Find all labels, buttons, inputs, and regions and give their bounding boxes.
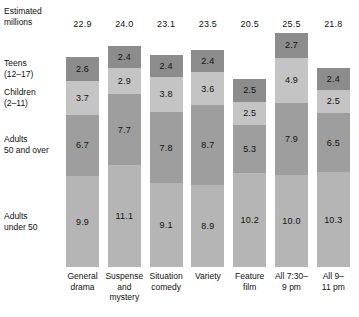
category-label: All 9–11 pm <box>313 271 354 292</box>
category-label-line: Suspense <box>104 271 145 282</box>
bar-segment-value: 3.8 <box>160 89 173 99</box>
bar-segment-value: 10.2 <box>241 215 259 225</box>
category-label: Featurefilm <box>229 271 270 292</box>
category-label: Situationcomedy <box>146 271 187 292</box>
bar-segment: 7.7 <box>108 94 141 165</box>
bar-segment: 2.4 <box>317 68 350 90</box>
bar-segment: 3.7 <box>66 81 99 115</box>
bar-segment-value: 2.4 <box>118 52 131 62</box>
bar-segment: 7.9 <box>275 103 308 175</box>
bar-segment: 4.9 <box>275 58 308 103</box>
bar-segment-value: 2.5 <box>243 85 256 95</box>
bar-segment: 6.7 <box>66 115 99 176</box>
bar-column: 2.42.56.510.3 <box>317 68 350 267</box>
category-label-line: 11 pm <box>313 282 354 293</box>
bar-column: 2.52.55.310.2 <box>233 79 266 267</box>
bar-segment-value: 9.9 <box>76 217 89 227</box>
bar-segment: 2.5 <box>233 79 266 102</box>
bar-segment-value: 4.9 <box>285 75 298 85</box>
category-label-line: Feature <box>229 271 270 282</box>
bar-segment-value: 7.9 <box>285 134 298 144</box>
bar-segment-value: 2.4 <box>327 74 340 84</box>
bar-segment-value: 8.9 <box>201 221 214 231</box>
bar-segment: 2.6 <box>66 57 99 81</box>
bar-segment: 6.5 <box>317 113 350 173</box>
bar-segment-value: 9.1 <box>160 220 173 230</box>
bar-segment: 2.7 <box>275 33 308 58</box>
bar-segment: 2.5 <box>317 90 350 113</box>
bar-column: 2.63.76.79.9 <box>66 57 99 267</box>
bar-segment: 10.2 <box>233 173 266 267</box>
bar-segment: 5.3 <box>233 125 266 174</box>
bar-segment: 2.5 <box>233 102 266 125</box>
category-label: All 7:30–9 pm <box>271 271 312 292</box>
bar-segment-value: 10.0 <box>282 216 300 226</box>
category-label: Suspenseandmystery <box>104 271 145 303</box>
bar-segment: 10.0 <box>275 175 308 267</box>
category-label-line: and <box>104 282 145 293</box>
bar-segment-value: 6.5 <box>327 138 340 148</box>
category-label: Variety <box>187 271 228 282</box>
category-label: Generaldrama <box>62 271 103 292</box>
bar-segment: 2.4 <box>191 50 224 72</box>
category-label-line: comedy <box>146 282 187 293</box>
bar-segment: 9.9 <box>66 176 99 267</box>
bar-segment: 3.6 <box>191 72 224 105</box>
bar-column: 2.74.97.910.0 <box>275 33 308 267</box>
bar-segment-value: 2.4 <box>160 61 173 71</box>
bar-segment: 8.9 <box>191 185 224 267</box>
bar-segment: 7.8 <box>150 112 183 184</box>
category-label-line: mystery <box>104 292 145 303</box>
category-label-line: Variety <box>187 271 228 282</box>
category-label-line: 9 pm <box>271 282 312 293</box>
category-label-line: All 7:30– <box>271 271 312 282</box>
bar-segment: 3.8 <box>150 77 183 112</box>
category-label-line: film <box>229 282 270 293</box>
bar-segment-value: 3.6 <box>201 84 214 94</box>
bar-segment-value: 2.5 <box>243 108 256 118</box>
bar-segment: 2.4 <box>108 46 141 68</box>
bar-segment-value: 2.9 <box>118 76 131 86</box>
plot-area: 2.63.76.79.9Generaldrama2.42.97.711.1Sus… <box>0 0 359 317</box>
category-label-line: General <box>62 271 103 282</box>
bar-segment: 2.9 <box>108 68 141 95</box>
bar-column: 2.43.68.78.9 <box>191 50 224 267</box>
bar-segment-value: 3.7 <box>76 93 89 103</box>
bar-segment: 8.7 <box>191 105 224 185</box>
bar-segment-value: 2.6 <box>76 64 89 74</box>
bar-segment-value: 2.5 <box>327 96 340 106</box>
bar-segment-value: 6.7 <box>76 140 89 150</box>
bar-segment-value: 7.8 <box>160 143 173 153</box>
bar-column: 2.43.87.89.1 <box>150 55 183 267</box>
bar-segment-value: 5.3 <box>243 144 256 154</box>
bar-segment-value: 2.7 <box>285 40 298 50</box>
category-label-line: drama <box>62 282 103 293</box>
bar-column: 2.42.97.711.1 <box>108 46 141 267</box>
bar-segment: 9.1 <box>150 183 183 267</box>
bar-segment-value: 11.1 <box>115 211 133 221</box>
bar-segment-value: 7.7 <box>118 125 131 135</box>
bar-segment: 2.4 <box>150 55 183 77</box>
bar-segment-value: 10.3 <box>324 215 342 225</box>
category-label-line: All 9– <box>313 271 354 282</box>
bar-segment-value: 2.4 <box>201 56 214 66</box>
bar-segment: 11.1 <box>108 165 141 267</box>
stacked-bar-chart: Estimated millions 22.924.023.123.520.52… <box>0 0 359 317</box>
category-label-line: Situation <box>146 271 187 282</box>
bar-segment: 10.3 <box>317 172 350 267</box>
bar-segment-value: 8.7 <box>201 140 214 150</box>
